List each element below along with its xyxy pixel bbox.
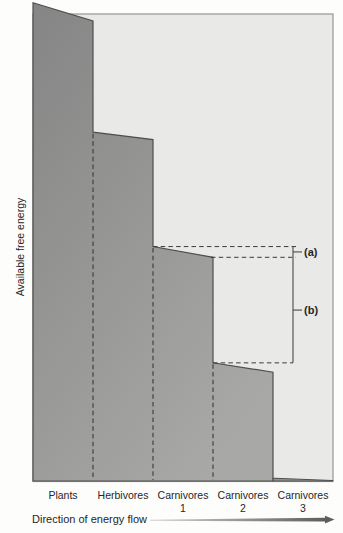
category-number-carnivores-3: 3: [300, 502, 306, 514]
y-axis-label: Available free energy: [14, 198, 26, 296]
category-label-carnivores-1: Carnivores: [158, 489, 209, 501]
category-number-carnivores-2: 2: [240, 502, 246, 514]
category-label-carnivores-3: Carnivores: [278, 489, 329, 501]
category-label-carnivores-2: Carnivores: [218, 489, 269, 501]
x-axis-caption: Direction of energy flow: [32, 513, 147, 525]
category-number-carnivores-1: 1: [180, 502, 186, 514]
annotation-a-label: (a): [304, 246, 317, 258]
flow-arrow-shaft: [150, 518, 325, 522]
energy-flow-figure: Available free energy Plants Herbivores …: [0, 0, 343, 533]
flow-arrow-head: [325, 516, 335, 524]
category-label-plants: Plants: [48, 489, 77, 501]
annotation-b-label: (b): [304, 304, 318, 316]
category-label-herbivores: Herbivores: [98, 489, 149, 501]
figure-canvas: [0, 0, 343, 533]
